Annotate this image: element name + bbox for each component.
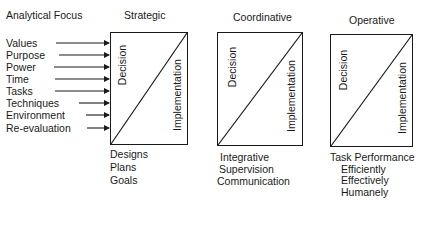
coordinative-decision-label: Decision bbox=[226, 45, 240, 90]
output-item: Task Performance bbox=[330, 152, 415, 164]
output-item: Supervision bbox=[217, 163, 290, 175]
strategic-decision-label: Decision bbox=[116, 43, 130, 88]
output-item: Humanely bbox=[330, 187, 415, 199]
output-item: Integrative bbox=[217, 151, 290, 163]
strategic-outputs: Designs Plans Goals bbox=[110, 148, 148, 187]
coordinative-outputs: Integrative Supervision Communication bbox=[217, 151, 290, 187]
output-item: Plans bbox=[110, 161, 148, 174]
output-item: Designs bbox=[110, 148, 148, 161]
output-item: Effectively bbox=[330, 175, 415, 187]
operative-implementation-label: Implementation bbox=[396, 60, 410, 136]
coordinative-implementation-label: Implementation bbox=[285, 58, 299, 134]
operative-decision-label: Decision bbox=[337, 48, 351, 93]
output-item: Communication bbox=[217, 175, 290, 187]
output-item: Goals bbox=[110, 174, 148, 187]
strategic-implementation-label: Implementation bbox=[171, 57, 185, 133]
operative-outputs: Task Performance Efficiently Effectively… bbox=[330, 152, 415, 198]
